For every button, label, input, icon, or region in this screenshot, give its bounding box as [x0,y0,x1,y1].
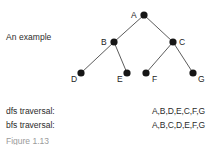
traversal-value: A,B,D,E,C,F,G [152,106,205,116]
tree-node-a [140,11,147,18]
traversal-result-list: dfs traversal:A,B,D,E,C,F,Gbfs traversal… [0,104,207,132]
tree-node-label-e: E [117,74,123,84]
tree-edge-b-e [114,42,127,73]
traversal-label: bfs traversal: [6,120,55,130]
tree-node-label-f: F [152,74,157,84]
tree-node-e [123,69,130,76]
tree-node-b [110,38,117,45]
tree-edge-a-b [114,15,144,42]
tree-node-g [189,69,196,76]
tree-node-label-a: A [131,10,137,20]
tree-edge-c-f [146,42,173,73]
tree-node-d [77,69,84,76]
tree-edge-group [81,15,193,73]
tree-node-f [142,69,149,76]
tree-node-label-b: B [101,37,107,47]
traversal-label: dfs traversal: [6,106,55,116]
traversal-row: bfs traversal:A,B,C,D,E,F,G [0,118,207,132]
tree-edge-a-c [144,15,173,42]
tree-edge-b-d [81,42,114,73]
tree-node-label-c: C [179,37,185,47]
binary-tree-diagram: ABCDEFG [0,0,207,100]
traversal-value: A,B,C,D,E,F,G [152,120,205,130]
tree-node-label-d: D [71,74,77,84]
tree-node-label-g: G [198,74,205,84]
tree-node-c [169,38,176,45]
traversal-row: dfs traversal:A,B,D,E,C,F,G [0,104,207,118]
figure-number-caption: Figure 1.13 [6,136,49,145]
figure-root: An example ABCDEFG dfs traversal:A,B,D,E… [0,0,207,145]
